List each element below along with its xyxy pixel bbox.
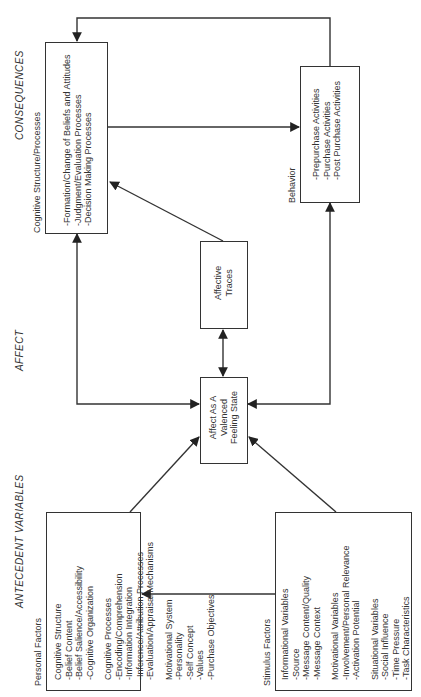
- section-consequences: CONSEQUENCES: [14, 50, 25, 140]
- arrow-traces-to-cognitive: [110, 182, 223, 241]
- behavior-items: -Prepurchase Activities -Purchase Activi…: [311, 81, 343, 180]
- affect-state-label: Affect As A Valenced Feeling State: [208, 391, 240, 444]
- arrow-affect-to-cognitive: [77, 234, 199, 404]
- cognitive-title: Cognitive Structure/Processes: [32, 112, 43, 233]
- stimulus-items: Informational Variables -Source -Message…: [280, 545, 412, 680]
- cognitive-item: -Judgment/Evaluation Processes: [73, 54, 84, 226]
- section-affect: AFFECT: [14, 330, 25, 371]
- affective-traces-label: Affective Traces: [213, 266, 234, 300]
- arrow-personal-to-affect: [130, 437, 199, 512]
- personal-items: Cognitive Structure -Belief Content -Bel…: [53, 542, 216, 680]
- stimulus-title: Stimulus Factors: [262, 619, 273, 686]
- cognitive-item: -Decision Making Processes: [83, 54, 94, 226]
- arrow-stimulus-to-affect: [249, 437, 336, 512]
- cognitive-items: -Formation/Change of Beliefs and Attitud…: [62, 54, 94, 226]
- behavior-item: -Post Purchase Activities: [332, 81, 343, 180]
- personal-title: Personal Factors: [33, 618, 44, 686]
- cognitive-item: -Formation/Change of Beliefs and Attitud…: [62, 54, 73, 226]
- arrow-behavior-to-cognitive: [77, 18, 330, 66]
- behavior-item: -Prepurchase Activities: [311, 81, 322, 180]
- section-antecedent: ANTECEDENT VARIABLES: [14, 474, 25, 608]
- behavior-item: -Purchase Activities: [322, 81, 333, 180]
- behavior-title: Behavior: [287, 167, 298, 203]
- arrow-affect-to-behavior: [248, 203, 330, 404]
